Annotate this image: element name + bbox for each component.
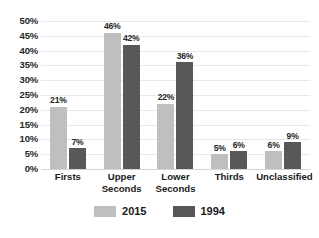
legend-color-swatch bbox=[173, 206, 195, 217]
legend-label: 2015 bbox=[122, 206, 146, 217]
bar[interactable] bbox=[176, 62, 193, 169]
bar-value-label: 46% bbox=[98, 22, 127, 31]
plot-area: 21%7%46%42%22%36%5%6%6%9% bbox=[41, 21, 310, 169]
x-axis-label: Unclassified bbox=[256, 171, 310, 183]
bar-group: 5%6% bbox=[202, 21, 256, 169]
bar[interactable] bbox=[123, 45, 140, 169]
y-axis-tick-label: 30% bbox=[0, 75, 38, 85]
bar-value-label: 36% bbox=[170, 52, 199, 61]
y-axis-tick-label: 25% bbox=[0, 90, 38, 100]
bar[interactable] bbox=[265, 151, 282, 169]
bar[interactable] bbox=[104, 33, 121, 169]
bar[interactable] bbox=[284, 142, 301, 169]
y-axis-tick-label: 15% bbox=[0, 120, 38, 130]
bar-group: 46%42% bbox=[95, 21, 149, 169]
x-axis-label: Thirds bbox=[202, 171, 256, 183]
bar-group: 22%36% bbox=[149, 21, 203, 169]
legend-item[interactable]: 1994 bbox=[173, 206, 225, 217]
x-axis-label: Firsts bbox=[41, 171, 95, 183]
y-axis-tick-label: 35% bbox=[0, 61, 38, 71]
axis-baseline bbox=[41, 169, 310, 170]
x-axis-label: Lower Seconds bbox=[149, 171, 203, 194]
bar-group: 6%9% bbox=[256, 21, 310, 169]
y-axis-tick-label: 10% bbox=[0, 135, 38, 145]
bar-value-label: 7% bbox=[63, 138, 92, 147]
y-axis-tick-label: 40% bbox=[0, 46, 38, 56]
bar-value-label: 9% bbox=[278, 132, 307, 141]
bar-value-label: 6% bbox=[224, 141, 253, 150]
bar[interactable] bbox=[230, 151, 247, 169]
bar[interactable] bbox=[157, 104, 174, 169]
y-axis-tick-label: 20% bbox=[0, 105, 38, 115]
legend-item[interactable]: 2015 bbox=[94, 206, 146, 217]
legend-label: 1994 bbox=[201, 206, 225, 217]
x-axis-category-labels: FirstsUpper SecondsLower SecondsThirdsUn… bbox=[41, 171, 310, 203]
legend-color-swatch bbox=[94, 206, 116, 217]
bar-group: 21%7% bbox=[41, 21, 95, 169]
bar[interactable] bbox=[69, 148, 86, 169]
bar-value-label: 42% bbox=[117, 34, 146, 43]
y-axis-tick-label: 5% bbox=[0, 149, 38, 159]
bar-chart: 0%5%10%15%20%25%30%35%40%45%50% 21%7%46%… bbox=[0, 0, 319, 238]
y-axis-tick-label: 0% bbox=[0, 164, 38, 174]
y-axis: 0%5%10%15%20%25%30%35%40%45%50% bbox=[0, 21, 38, 169]
chart-legend: 20151994 bbox=[0, 206, 319, 217]
x-axis-label: Upper Seconds bbox=[95, 171, 149, 194]
y-axis-tick-label: 50% bbox=[0, 16, 38, 26]
bar[interactable] bbox=[211, 154, 228, 169]
y-axis-tick-label: 45% bbox=[0, 31, 38, 41]
bar-value-label: 21% bbox=[44, 96, 73, 105]
